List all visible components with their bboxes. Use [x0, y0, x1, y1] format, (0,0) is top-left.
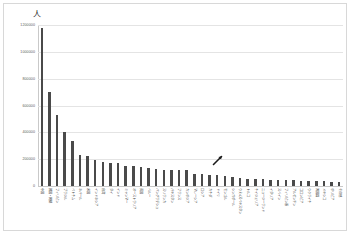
x-axis-tick-label: スリランカ: [162, 188, 166, 228]
bar[interactable]: [48, 92, 51, 186]
x-axis-tick-label: インドネシア: [93, 188, 97, 228]
x-axis-tick-label: トルコ: [245, 188, 249, 228]
x-axis-tick-label: 英国: [139, 188, 143, 228]
bar[interactable]: [224, 176, 227, 186]
bar[interactable]: [239, 178, 242, 186]
bar[interactable]: [155, 169, 158, 186]
x-axis-tick-label: 台湾: [101, 188, 105, 228]
bar[interactable]: [262, 179, 265, 186]
bar-chart: 人 02000004000006000008000001000000120000…: [0, 0, 351, 235]
bar[interactable]: [300, 181, 303, 186]
bar[interactable]: [269, 180, 272, 186]
y-axis-tick-label: 200000: [22, 157, 35, 161]
x-axis-tick-label: ボリビア: [329, 188, 333, 228]
x-axis-tick-label: 無国籍: [314, 188, 318, 228]
bar[interactable]: [285, 180, 288, 186]
x-axis-tick-label: ナイジェリア: [253, 188, 257, 228]
bar[interactable]: [323, 181, 326, 186]
bar[interactable]: [124, 166, 127, 186]
gridline: [38, 186, 343, 187]
bar[interactable]: [86, 156, 89, 186]
x-axis-tick-label: メキシコ: [322, 188, 326, 228]
bar[interactable]: [338, 182, 341, 186]
bar[interactable]: [170, 170, 173, 186]
bar[interactable]: [178, 170, 181, 186]
x-axis-tick-label: シンガポール: [230, 188, 234, 228]
x-axis-tick-label: ベトナム: [70, 188, 74, 228]
bar[interactable]: [140, 167, 143, 186]
x-axis-tick-label: ニュージーランド: [261, 188, 265, 228]
x-axis-tick-label: アルゼンチン: [291, 188, 295, 228]
bar[interactable]: [63, 132, 66, 186]
bar[interactable]: [292, 180, 295, 186]
x-axis-tick-label: オーストラリア: [131, 188, 135, 228]
bar[interactable]: [185, 170, 188, 186]
x-axis-tick-label: タイ: [108, 188, 112, 228]
bar[interactable]: [277, 180, 280, 186]
x-axis-tick-label: ネパール: [78, 188, 82, 228]
bar[interactable]: [56, 115, 59, 186]
x-axis-tick-label: フィリピン: [55, 188, 59, 228]
bar[interactable]: [117, 163, 120, 186]
y-axis-tick-label: 400000: [22, 130, 35, 134]
bar[interactable]: [132, 166, 135, 186]
x-axis-tick-label: モンゴル: [223, 188, 227, 228]
bar[interactable]: [94, 160, 97, 186]
bar[interactable]: [201, 174, 204, 186]
bar[interactable]: [193, 174, 196, 186]
x-axis-tick-label: ウぇ4ズベキスタン: [238, 188, 242, 228]
x-axis-tick-label: ロシア: [200, 188, 204, 228]
x-axis-tick-label: マレーシア: [192, 188, 196, 228]
y-axis-tick-label: 600000: [22, 104, 35, 108]
bar[interactable]: [163, 170, 166, 186]
bar[interactable]: [231, 177, 234, 186]
bar[interactable]: [307, 181, 310, 186]
y-axis-tick-label: 1200000: [20, 23, 35, 27]
x-axis-tick-labels: 中国韓国・朝鮮フィリピンブラジルベトナムネパール米国インドネシア台湾タイインドミ…: [38, 188, 343, 232]
x-axis-tick-label: その他: [337, 188, 341, 228]
x-axis-tick-label: カナダ: [207, 188, 211, 228]
y-axis-tick-labels: 020000040000060000080000010000001200000: [0, 0, 35, 186]
bar[interactable]: [102, 162, 105, 186]
y-axis-tick-label: 800000: [22, 77, 35, 81]
bar[interactable]: [315, 181, 318, 186]
bar[interactable]: [147, 168, 150, 186]
bar[interactable]: [246, 179, 249, 186]
bar[interactable]: [254, 179, 257, 186]
x-axis-tick-label: イタリア: [268, 188, 272, 228]
plot-area: [38, 25, 343, 186]
x-axis-tick-label: ペルー: [146, 188, 150, 228]
bar[interactable]: [41, 28, 44, 186]
bar[interactable]: [208, 175, 211, 186]
x-axis-tick-label: バングラデシュ: [154, 188, 158, 228]
y-axis-tick-label: 1000000: [20, 50, 35, 54]
x-axis-tick-label: ミャンマー: [123, 188, 127, 228]
x-axis-tick-label: ブラジル: [62, 188, 66, 228]
x-axis-tick-label: スペイン: [276, 188, 280, 228]
x-axis-tick-label: ウクライナ: [306, 188, 310, 228]
bar[interactable]: [109, 163, 112, 186]
x-axis-tick-label: カンボジア: [184, 188, 188, 228]
x-axis-tick-label: 米国: [85, 188, 89, 228]
x-axis-tick-label: パキスタン: [169, 188, 173, 228]
x-axis-tick-label: コロンビア: [299, 188, 303, 228]
bar[interactable]: [79, 155, 82, 186]
x-axis-tick-label: ドイツ: [215, 188, 219, 228]
x-axis-tick-label: フランス: [177, 188, 181, 228]
x-axis-tick-label: 韓国・朝鮮: [47, 188, 51, 228]
bar-series: [38, 25, 343, 186]
bar[interactable]: [216, 175, 219, 186]
x-axis-tick-label: フィリピン系: [284, 188, 288, 228]
bar[interactable]: [71, 141, 74, 186]
x-axis-tick-label: 中国: [40, 188, 44, 228]
bar[interactable]: [330, 182, 333, 186]
x-axis-tick-label: インド: [116, 188, 120, 228]
y-axis-tick-label: 0: [33, 184, 35, 188]
